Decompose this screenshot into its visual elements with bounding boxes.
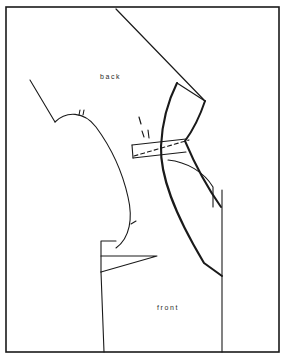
- pattern-drawing-canvas: back front: [0, 0, 286, 361]
- label-front: front: [157, 304, 179, 311]
- figure-background: [0, 0, 286, 361]
- pattern-figure: back front: [0, 0, 286, 361]
- label-back: back: [100, 73, 121, 80]
